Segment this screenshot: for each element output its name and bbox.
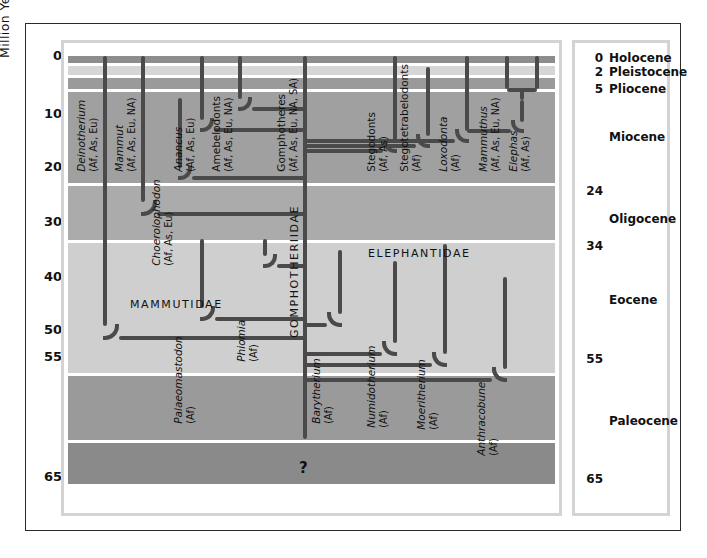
taxon-regions: (Af) xyxy=(248,344,259,361)
taxon-regions: (Af) xyxy=(323,406,334,423)
taxon-regions: (Af) xyxy=(488,438,499,455)
taxon-name: Loxodonta xyxy=(437,117,449,172)
taxon-label-deinotherium: Deinotherium(Af, As, Eu) xyxy=(76,100,100,172)
stem-elephantini xyxy=(520,90,524,100)
y-tick-30: 30 xyxy=(28,214,62,229)
family-label-elephantidae: ELEPHANTIDAE xyxy=(368,247,471,260)
taxon-label-anancus: Anancus(Af, As, Eu) xyxy=(173,118,197,172)
taxon-regions: (Af, As, Eu, NA, SA) xyxy=(288,78,299,172)
branch-anthracobune-stem xyxy=(503,277,507,369)
taxon-name: Palaeomastodon xyxy=(172,336,184,423)
taxon-regions: (Af, As) xyxy=(378,136,389,171)
branch-barytherium-stem xyxy=(338,250,342,314)
taxon-label-loxodonta: Loxodonta(Af) xyxy=(438,117,462,172)
stem-elephas xyxy=(535,56,539,89)
epoch-name-paleocene: Paleocene xyxy=(609,414,678,428)
taxon-name: Moeritherium xyxy=(415,359,427,430)
taxon-label-amebelodonts: Amebelodonts(Af, As, Eu, NA) xyxy=(211,96,235,172)
taxon-label-mammuthus: Mammuthus(Af, As, Eu, NA) xyxy=(478,97,502,171)
y-tick-40: 40 xyxy=(28,269,62,284)
taxon-label-numidotherium: Numidotherium(Af) xyxy=(366,346,390,428)
taxon-regions: (Af, As, Eu) xyxy=(88,118,99,172)
taxon-label-mammut: Mammut(Af, As, Eu, NA) xyxy=(114,97,138,171)
taxon-name: Gomphotheres xyxy=(275,94,287,172)
taxon-name: Elephas xyxy=(507,130,519,171)
taxon-regions: (Af) xyxy=(450,154,461,171)
taxon-regions: (Af, As, Eu, NA) xyxy=(126,97,137,171)
epoch-age-holocene: 0 xyxy=(575,51,603,65)
taxon-name: Barytherium xyxy=(310,358,322,424)
branch-stegotetrabelodonts-stem xyxy=(426,67,430,136)
branch-amebelodonts-stem xyxy=(238,56,242,99)
y-tick-50: 50 xyxy=(28,322,62,337)
epoch-age-paleocene: 65 xyxy=(575,472,603,486)
taxon-label-stegodonts: Stegodonts(Af, As) xyxy=(366,112,390,172)
taxon-label-barytherium: Barytherium(Af) xyxy=(311,358,335,424)
taxon-name: Mammut xyxy=(113,125,125,172)
chart-root: Million Years 010203040505565 Deinotheri… xyxy=(0,0,707,558)
taxon-regions: (Af, As, Eu, NA) xyxy=(223,97,234,171)
taxon-regions: (Af) xyxy=(378,410,389,427)
epoch-age-eocene: 55 xyxy=(575,352,603,366)
branch-anancus-stem xyxy=(200,56,204,120)
branch-deinotherium-stem xyxy=(103,56,107,326)
taxon-name: Amebelodonts xyxy=(210,96,222,172)
taxon-name: Choerolophodon xyxy=(150,179,162,265)
branch-deinotherium-connector xyxy=(119,336,305,340)
taxon-regions: (Af, As, Eu) xyxy=(163,212,174,266)
stem-mammuthus xyxy=(505,56,509,89)
y-tick-55: 55 xyxy=(28,349,62,364)
epoch-age-pleistocene: 2 xyxy=(575,65,603,79)
taxon-label-moeritherium: Moeritherium(Af) xyxy=(416,359,440,430)
taxon-regions: (Af, As, Eu) xyxy=(185,118,196,172)
y-tick-65: 65 xyxy=(28,469,62,484)
taxon-name: Mammuthus xyxy=(477,106,489,172)
branch-stegodonts-stem xyxy=(393,56,397,141)
branch-elephantini-stem xyxy=(520,100,524,122)
uncertainty-question-mark: ? xyxy=(299,459,308,477)
epoch-name-holocene: Holocene xyxy=(609,51,672,65)
taxon-label-gomphotheres: Gomphotheres(Af, As, Eu, NA, SA) xyxy=(276,78,300,172)
epoch-age-oligocene: 34 xyxy=(575,239,603,253)
epoch-name-miocene: Miocene xyxy=(609,130,665,144)
taxon-name: Stegotetrabelodonts xyxy=(398,64,410,172)
y-tick-20: 20 xyxy=(28,159,62,174)
y-tick-0: 0 xyxy=(28,48,62,63)
epoch-name-pliocene: Pliocene xyxy=(609,82,666,96)
taxon-regions: (Af, As, Eu, NA) xyxy=(490,97,501,171)
taxon-name: Stegodonts xyxy=(365,112,377,172)
branch-mammut-stem xyxy=(141,56,145,202)
taxon-regions: (Af) xyxy=(428,412,439,429)
branch-numidotherium-stem xyxy=(393,261,397,343)
epoch-age-miocene: 24 xyxy=(575,184,603,198)
taxon-label-elephas: Elephas(Af, As) xyxy=(508,130,532,171)
epoch-panel-frame: 0Holocene2Pleistocene5Pliocene24Miocene3… xyxy=(572,40,670,516)
branch-barytherium-connector xyxy=(305,323,327,327)
taxon-label-phiomia: Phiomia(Af) xyxy=(236,320,260,362)
branch-choerolophodon-connector xyxy=(192,176,305,180)
y-axis-title: Million Years xyxy=(0,0,15,58)
epoch-age-pliocene: 5 xyxy=(575,82,603,96)
taxon-regions: (Af, As) xyxy=(520,136,531,171)
taxon-name: Anthracobune xyxy=(475,382,487,456)
family-label-gomphotheriidae: GOMPHOTHERIIDAE xyxy=(288,205,301,338)
taxon-name: Anancus xyxy=(172,127,184,172)
taxon-regions: (Af) xyxy=(185,406,196,423)
taxon-label-stegotetrabelodonts: Stegotetrabelodonts(Af) xyxy=(399,64,423,172)
branch-moeritherium-stem xyxy=(443,244,447,354)
family-label-mammutidae: MAMMUTIDAE xyxy=(130,298,223,311)
epoch-name-eocene: Eocene xyxy=(609,293,657,307)
taxon-name: Numidotherium xyxy=(365,346,377,428)
taxon-regions: (Af) xyxy=(411,154,422,171)
taxon-label-palaeomastodon: Palaeomastodon(Af) xyxy=(173,336,197,423)
phylogeny-plot: Deinotherium(Af, As, Eu)Mammut(Af, As, E… xyxy=(68,47,555,509)
taxon-name: Deinotherium xyxy=(75,100,87,172)
epoch-name-oligocene: Oligocene xyxy=(609,212,676,226)
branch-mammut-connector xyxy=(157,212,305,216)
branch-loxodonta-stem xyxy=(465,56,469,131)
epoch-name-pleistocene: Pleistocene xyxy=(609,65,687,79)
taxon-label-anthracobune: Anthracobune(Af) xyxy=(476,382,500,456)
taxon-name: Phiomia xyxy=(235,320,247,362)
gridline-4 xyxy=(68,240,555,243)
taxon-label-choerolophodon: Choerolophodon(Af, As, Eu) xyxy=(151,179,175,265)
